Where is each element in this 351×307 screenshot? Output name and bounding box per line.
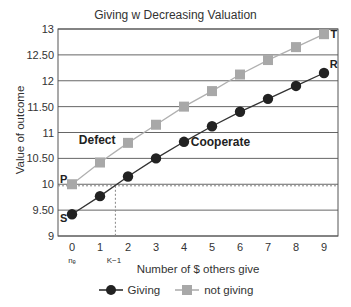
data-point-not-giving: [179, 102, 189, 112]
chart-plot: 99.501010.501111.501212.50130123456789nₑ…: [0, 0, 351, 307]
y-tick-label: 11: [43, 127, 54, 139]
y-tick-label: 9.50: [33, 204, 54, 216]
annotation-defect: Defect: [79, 133, 116, 147]
data-point-not-giving: [235, 70, 245, 80]
data-point-not-giving: [319, 29, 329, 39]
x-tick-label: 6: [237, 241, 243, 253]
data-point-not-giving: [263, 55, 273, 65]
y-tick-label: 12: [42, 75, 54, 87]
data-point-not-giving: [67, 179, 77, 189]
data-point-giving: [207, 121, 217, 131]
data-point-not-giving: [123, 138, 133, 148]
y-tick-label: 11.50: [27, 101, 54, 113]
data-point-giving: [235, 107, 245, 117]
data-point-giving: [95, 191, 105, 201]
x-tick-label: 4: [181, 241, 187, 253]
data-point-giving: [123, 171, 133, 181]
legend: Giving not giving: [0, 284, 351, 296]
x-tick-label: 1: [97, 241, 103, 253]
series-line-not-giving: [72, 34, 324, 184]
y-tick-label: 13: [42, 23, 54, 35]
annotation-r: R: [330, 58, 338, 70]
annotation-s: S: [60, 212, 67, 224]
square-marker-icon: [174, 284, 200, 296]
legend-item-not-giving: not giving: [174, 284, 253, 296]
y-tick-label: 10: [42, 178, 54, 190]
legend-label: not giving: [204, 284, 253, 296]
y-tick-label: 10.50: [26, 152, 54, 164]
annotation-t: T: [330, 28, 337, 40]
x-tick-label: 2: [125, 241, 131, 253]
annotation-p: P: [60, 173, 67, 185]
x-tick-label: 0: [69, 241, 75, 253]
data-point-giving: [291, 81, 301, 91]
data-point-giving: [151, 153, 161, 163]
data-point-not-giving: [291, 42, 301, 52]
data-point-not-giving: [95, 158, 105, 168]
y-tick-label: 9: [48, 230, 54, 242]
x-tick-label: 3: [153, 241, 159, 253]
x-tick-label: 5: [209, 241, 215, 253]
data-point-giving: [179, 137, 189, 147]
circle-marker-icon: [98, 284, 124, 296]
data-point-not-giving: [151, 120, 161, 130]
legend-label: Giving: [128, 284, 161, 296]
data-point-not-giving: [207, 86, 217, 96]
x-tick-label: 8: [293, 241, 299, 253]
data-point-giving: [319, 68, 329, 78]
x-tick-label: 7: [265, 241, 271, 253]
data-point-giving: [263, 94, 273, 104]
annotation-cooperate: Cooperate: [191, 135, 251, 149]
x-tick-label: 9: [321, 241, 327, 253]
data-point-giving: [67, 209, 77, 219]
y-tick-label: 12.50: [26, 49, 54, 61]
legend-item-giving: Giving: [98, 284, 161, 296]
x-axis-label: Number of $ others give: [58, 263, 338, 275]
